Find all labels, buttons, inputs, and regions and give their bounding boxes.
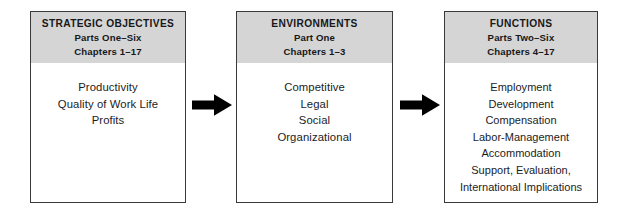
list-item: Legal	[240, 96, 389, 113]
right-arrow-icon	[190, 92, 234, 118]
box-parts-functions: Parts Two–Six	[445, 31, 597, 45]
box-header-strategic-objectives: STRATEGIC OBJECTIVES Parts One–Six Chapt…	[31, 12, 185, 63]
right-arrow-icon	[398, 92, 442, 118]
list-item: Competitive	[240, 79, 389, 96]
flow-diagram: STRATEGIC OBJECTIVES Parts One–Six Chapt…	[0, 0, 631, 218]
box-body-environments: Competitive Legal Social Organizational	[237, 63, 392, 202]
list-item: Organizational	[240, 129, 389, 146]
list-item: Profits	[34, 112, 182, 129]
list-item: Productivity	[34, 79, 182, 96]
list-item: Support, Evaluation,	[448, 162, 594, 179]
box-chapters-functions: Chapters 4–17	[445, 45, 597, 59]
box-title-functions: FUNCTIONS	[445, 17, 597, 31]
arrow-environments-to-functions	[398, 92, 442, 118]
box-header-functions: FUNCTIONS Parts Two–Six Chapters 4–17	[445, 12, 597, 63]
list-item: Labor-Management	[448, 129, 594, 146]
box-header-environments: ENVIRONMENTS Part One Chapters 1–3	[237, 12, 392, 63]
box-parts-environments: Part One	[237, 31, 392, 45]
list-item: Social	[240, 112, 389, 129]
box-environments: ENVIRONMENTS Part One Chapters 1–3 Compe…	[236, 11, 393, 203]
box-title-strategic-objectives: STRATEGIC OBJECTIVES	[31, 17, 185, 31]
box-parts-strategic-objectives: Parts One–Six	[31, 31, 185, 45]
box-strategic-objectives: STRATEGIC OBJECTIVES Parts One–Six Chapt…	[30, 11, 186, 203]
arrow-objectives-to-environments	[190, 92, 234, 118]
list-item: International Implications	[448, 179, 594, 196]
box-body-strategic-objectives: Productivity Quality of Work Life Profit…	[31, 63, 185, 202]
box-chapters-strategic-objectives: Chapters 1–17	[31, 45, 185, 59]
box-functions: FUNCTIONS Parts Two–Six Chapters 4–17 Em…	[444, 11, 598, 203]
list-item: Development	[448, 96, 594, 113]
box-chapters-environments: Chapters 1–3	[237, 45, 392, 59]
list-item: Accommodation	[448, 145, 594, 162]
list-item: Employment	[448, 79, 594, 96]
box-title-environments: ENVIRONMENTS	[237, 17, 392, 31]
list-item: Compensation	[448, 112, 594, 129]
list-item: Quality of Work Life	[34, 96, 182, 113]
box-body-functions: Employment Development Compensation Labo…	[445, 63, 597, 202]
